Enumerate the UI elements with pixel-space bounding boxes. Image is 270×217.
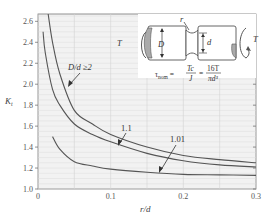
x-tick-label: 0.3 [251,192,261,201]
x-tick-label: 0.1 [106,192,116,201]
y-tick-label: 1.6 [23,122,33,131]
x-tick-label: 0 [36,192,40,201]
y-tick-label: 2.4 [23,38,33,47]
y-tick-label: 2.0 [23,80,33,89]
y-axis-label: Kt [4,96,13,107]
svg-text:1.1: 1.1 [121,123,132,133]
svg-text:Tc: Tc [187,64,194,73]
svg-text:T: T [253,34,259,44]
svg-text:πd³: πd³ [208,74,219,83]
y-tick-label: 1.2 [23,164,33,173]
svg-text:16T: 16T [207,64,220,73]
y-tick-label: 2.6 [23,17,33,26]
svg-text:D: D [157,39,165,49]
svg-text:D/d ≥2: D/d ≥2 [67,62,93,72]
stress-concentration-chart: 1.01.21.41.61.82.02.22.42.6 00.10.20.3 K… [0,0,270,217]
x-axis-ticks: 00.10.20.3 [36,192,261,201]
y-tick-label: 1.8 [23,101,33,110]
svg-text:=: = [199,69,203,78]
grooved-shaft-inset: T T D d r τnom = Tc J = 16T πd [117,14,259,83]
y-tick-label: 1.4 [23,143,33,152]
y-tick-label: 1.0 [23,185,33,194]
x-axis-label: r/d [140,204,151,214]
y-tick-label: 2.2 [23,59,33,68]
svg-text:1.01: 1.01 [170,134,185,144]
x-tick-label: 0.2 [178,192,188,201]
